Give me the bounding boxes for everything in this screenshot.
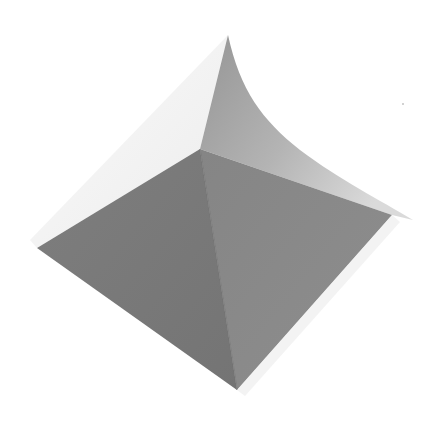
- dust-speck: [402, 103, 404, 105]
- photo-canvas: [0, 0, 426, 425]
- paper-pyramid-illustration: [0, 0, 426, 425]
